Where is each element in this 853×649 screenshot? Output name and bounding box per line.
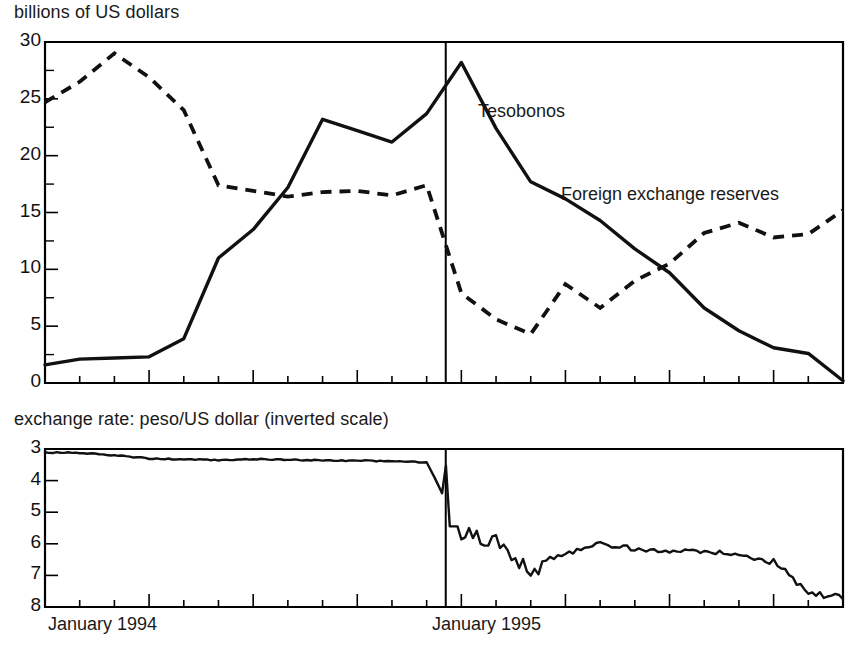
chart-canvas [0, 0, 853, 649]
y-tick-top-15: 15 [7, 200, 41, 222]
y-tick-top-10: 10 [7, 256, 41, 278]
y-tick-bottom-5: 5 [7, 499, 41, 521]
y-tick-top-25: 25 [7, 86, 41, 108]
y-tick-bottom-7: 7 [7, 562, 41, 584]
y-tick-bottom-3: 3 [7, 436, 41, 458]
y-tick-top-20: 20 [7, 143, 41, 165]
y-tick-bottom-8: 8 [7, 594, 41, 616]
y-tick-top-30: 30 [7, 29, 41, 51]
y-tick-bottom-6: 6 [7, 531, 41, 553]
y-tick-top-0: 0 [7, 370, 41, 392]
series-path-tesobonos [45, 62, 843, 380]
series-path-peso-exchange-rate [45, 452, 843, 599]
y-tick-bottom-4: 4 [7, 468, 41, 490]
y-tick-top-5: 5 [7, 313, 41, 335]
series-path-foreign-exchange-reserves [45, 53, 843, 334]
figure-root: billions of US dollars exchange rate: pe… [0, 0, 853, 649]
